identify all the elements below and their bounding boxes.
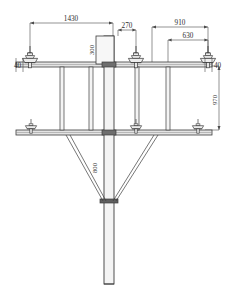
vertical-brace-1 — [60, 67, 64, 130]
drawing-canvas: 1430 270 910 630 300 40 40 970 800 — [0, 0, 228, 286]
dimension-block-top — [30, 21, 208, 128]
dim-label-1430: 1430 — [64, 15, 79, 23]
dim-630 — [168, 39, 208, 129]
vertical-braces — [60, 67, 170, 130]
dim-label-910: 910 — [175, 19, 186, 27]
vertical-brace-2 — [89, 67, 93, 130]
diagonal-brace-right-outer — [116, 135, 158, 201]
dim-label-800: 800 — [91, 162, 98, 173]
pole-collar-lower — [102, 130, 116, 135]
diagonal-brace-right-inner — [113, 135, 154, 201]
technical-drawing-svg: 1430 270 910 630 300 40 40 970 800 — [0, 0, 228, 286]
dim-label-630: 630 — [183, 32, 194, 40]
vertical-brace-4 — [166, 67, 170, 130]
dim-label-40-left: 40 — [14, 62, 22, 70]
dim-910 — [152, 25, 208, 62]
diagonal-brace-left-inner — [70, 135, 106, 201]
pole-top-box — [96, 36, 114, 64]
dim-label-970: 970 — [211, 94, 218, 105]
dim-label-40-right: 40 — [214, 62, 222, 70]
center-pole — [96, 36, 118, 284]
dim-270 — [118, 29, 136, 56]
dim-label-270: 270 — [122, 22, 133, 30]
pole-collar-upper — [102, 62, 116, 67]
vertical-brace-3 — [135, 67, 139, 130]
dim-label-300: 300 — [88, 44, 95, 55]
